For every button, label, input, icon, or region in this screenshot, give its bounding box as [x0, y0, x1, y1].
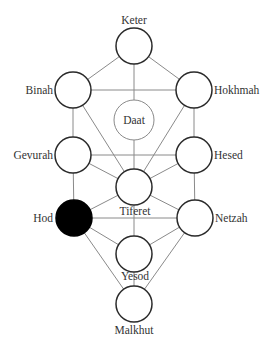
label-keter: Keter: [121, 14, 147, 26]
tree-of-life-diagram: Keter Binah Hokhmah Daat Gevurah Hesed T…: [0, 0, 268, 347]
node-hesed: [176, 137, 212, 173]
label-tiferet: Tiferet: [120, 205, 152, 217]
node-malkhut: [116, 286, 152, 322]
label-hod: Hod: [33, 212, 53, 224]
node-yesod: [116, 236, 152, 272]
node-binah: [55, 72, 91, 108]
label-hokhmah: Hokhmah: [214, 84, 260, 96]
label-hesed: Hesed: [214, 149, 243, 161]
node-hod: [56, 200, 92, 236]
node-hokhmah: [176, 72, 212, 108]
label-netzah: Netzah: [215, 212, 248, 224]
label-daat: Daat: [123, 114, 146, 126]
label-yesod: Yesod: [121, 270, 149, 282]
label-malkhut: Malkhut: [115, 324, 155, 336]
node-gevurah: [55, 137, 91, 173]
label-binah: Binah: [26, 84, 54, 96]
node-keter: [116, 28, 152, 64]
node-tiferet: [116, 169, 152, 205]
label-gevurah: Gevurah: [13, 149, 53, 161]
node-netzah: [177, 200, 213, 236]
